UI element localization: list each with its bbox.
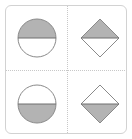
circle-top-filled-icon (18, 19, 56, 57)
shape-grid (0, 0, 132, 139)
diamond-top-filled-icon (81, 19, 119, 57)
circle-bottom-filled-icon (18, 85, 56, 123)
diamond-bottom-filled-icon (81, 85, 119, 123)
